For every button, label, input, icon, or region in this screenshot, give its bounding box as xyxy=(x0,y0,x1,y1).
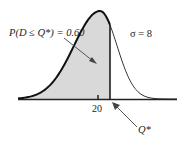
mean-label: 20 xyxy=(92,103,102,114)
sigma-label: σ = 8 xyxy=(130,28,152,39)
distribution-diagram: P(D ≤ Q*) = 0.60 σ = 8 20 Q* xyxy=(0,0,189,143)
q-star-arrow-line xyxy=(116,106,137,127)
q-star-label: Q* xyxy=(138,124,152,135)
shaded-area xyxy=(18,11,110,99)
probability-label: P(D ≤ Q*) = 0.60 xyxy=(8,27,85,39)
